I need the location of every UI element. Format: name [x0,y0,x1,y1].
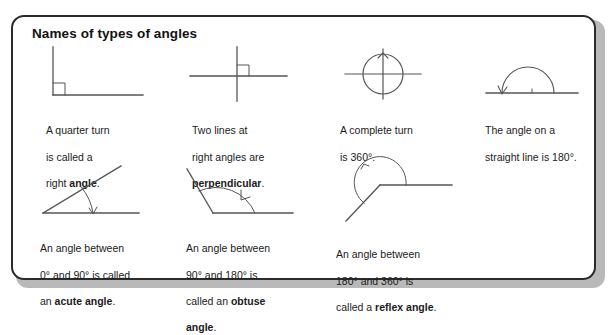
caption-line-2: 0° and 90° is called [40,269,130,281]
caption-line-2: right angles are [192,151,264,163]
straight-line-diagram [480,59,590,103]
caption-line-1: An angle between [186,242,270,254]
angles-panel: Names of types of angles A quarter turn … [11,15,596,280]
caption-line-2: 90° and 180° is [186,269,257,281]
item-complete-turn: A complete turn is 360°. [335,45,475,150]
caption-line-1: A quarter turn [46,124,110,136]
caption-straight-line-angle: The angle on a straight line is 180°. [485,111,607,164]
item-right-angle: A quarter turn is called a right angle. [41,45,171,150]
caption-term-continued: angle [186,321,213,333]
reflex-angle-diagram [328,157,468,227]
caption-line-1: Two lines at [192,124,247,136]
obtuse-angle-diagram [181,163,306,221]
perpendicular-lines-diagram [187,45,307,103]
caption-term: reflex angle [375,301,433,313]
caption-line-3-plain: an [40,295,55,307]
item-reflex-angle: An angle between 180° and 360° is called… [328,157,488,273]
caption-line-3-plain: called a [336,301,375,313]
caption-reflex-angle: An angle between 180° and 360° is called… [336,235,492,314]
caption-line-3-tail: . [433,301,436,313]
page-title: Names of types of angles [32,26,197,41]
caption-acute-angle: An angle between 0° and 90° is called an… [40,229,180,308]
item-acute-angle: An angle between 0° and 90° is called an… [35,163,175,273]
caption-line-1: The angle on a [485,124,555,136]
caption-obtuse-angle: An angle between 90° and 180° is called … [186,229,326,335]
caption-line-2: straight line is 180°. [485,151,577,163]
caption-line-1: A complete turn [340,124,413,136]
item-obtuse-angle: An angle between 90° and 180° is called … [181,163,321,273]
item-perpendicular: Two lines at right angles are perpendicu… [187,45,327,150]
caption-line-3-tail: . [112,295,115,307]
caption-line-3-plain: called an [186,295,231,307]
caption-line-1: An angle between [40,242,124,254]
right-angle-diagram [41,45,161,103]
complete-turn-diagram [335,45,455,103]
caption-line-1: An angle between [336,248,420,260]
caption-complete-turn: A complete turn is 360°. [340,111,478,164]
caption-line-2: is called a [46,151,93,163]
item-straight-line-angle: The angle on a straight line is 180°. [480,45,598,150]
caption-term: obtuse [231,295,265,307]
acute-angle-diagram [35,163,160,221]
caption-line-2: 180° and 360° is [336,275,413,287]
caption-term: acute angle [55,295,113,307]
caption-line-4-tail: . [213,321,216,333]
